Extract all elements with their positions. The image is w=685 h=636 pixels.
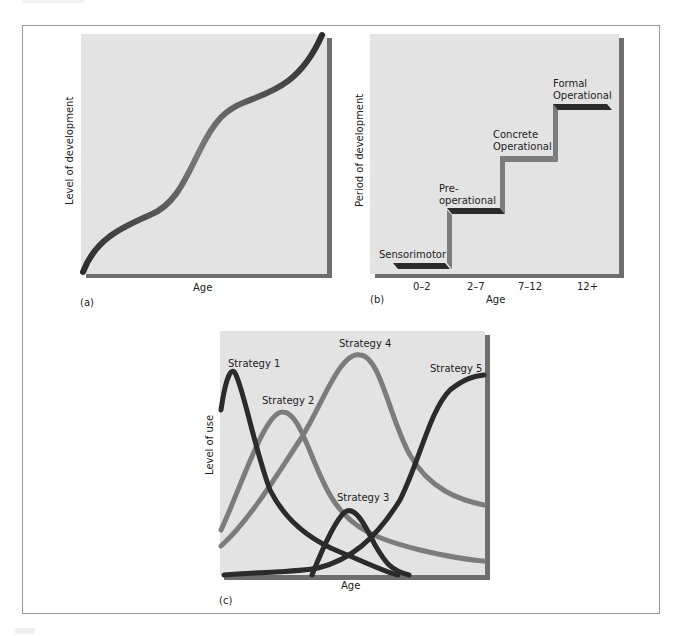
panel-c-x-axis-label: Age [341, 580, 360, 592]
panel-c-y-axis-label: Level of use [204, 415, 216, 475]
strategy-1-label: Strategy 1 [228, 358, 280, 370]
page-footer-fragment [15, 628, 35, 634]
strategy-4-label: Strategy 4 [339, 338, 391, 350]
strategy-5-label: Strategy 5 [430, 363, 482, 375]
strategy-3-label: Strategy 3 [337, 492, 389, 504]
panel-c-caption: (c) [219, 595, 232, 607]
strategy-2-label: Strategy 2 [262, 395, 314, 407]
panel-c-curves [0, 0, 685, 636]
